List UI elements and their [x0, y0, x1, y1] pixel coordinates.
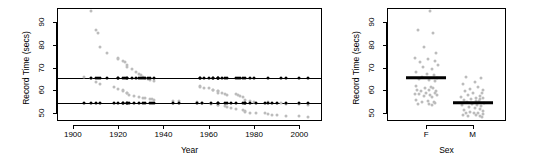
observed-point	[117, 88, 120, 91]
y-tick-label: 90	[38, 18, 46, 27]
observed-point	[480, 76, 483, 79]
y-tick-label: 70	[368, 63, 376, 72]
observed-point	[243, 110, 246, 113]
x-axis-line	[73, 125, 299, 126]
plot-area-year	[57, 8, 322, 121]
observed-point	[89, 9, 92, 12]
observed-point	[234, 107, 237, 110]
observed-point	[473, 80, 476, 83]
fitted-point	[266, 101, 269, 104]
fitted-point	[126, 76, 129, 79]
fitted-point	[153, 101, 156, 104]
x-axis-line	[426, 125, 472, 126]
x-tick-label: M	[469, 131, 476, 139]
fitted-point	[128, 101, 131, 104]
observed-point	[230, 106, 233, 109]
y-tick	[53, 113, 57, 114]
observed-point	[307, 115, 310, 118]
x-tick	[209, 125, 210, 129]
fitted-point	[148, 76, 151, 79]
observed-point	[418, 92, 421, 95]
panel-year: 5060708090190019201940196019802000 Year …	[0, 0, 340, 164]
observed-point	[422, 94, 425, 97]
observed-point	[112, 86, 115, 89]
observed-point	[271, 113, 274, 116]
observed-point	[416, 102, 419, 105]
observed-point	[133, 95, 136, 98]
observed-point	[198, 85, 201, 88]
observed-point	[255, 112, 258, 115]
observed-point	[426, 99, 429, 102]
observed-point	[94, 80, 97, 83]
observed-point	[464, 90, 467, 93]
observed-point	[421, 100, 424, 103]
observed-point	[126, 65, 129, 68]
fitted-point	[203, 76, 206, 79]
fitted-point	[280, 76, 283, 79]
observed-point	[415, 99, 418, 102]
observed-point	[128, 93, 131, 96]
fitted-point	[284, 76, 287, 79]
observed-point	[121, 90, 124, 93]
fitted-point	[248, 101, 251, 104]
observed-point	[298, 115, 301, 118]
fitted-point	[216, 101, 219, 104]
x-axis-title-sex: Sex	[439, 145, 454, 155]
fitted-point	[89, 76, 92, 79]
fitted-point	[178, 101, 181, 104]
fitted-point	[121, 101, 124, 104]
y-tick-label: 90	[368, 18, 376, 27]
observed-point	[430, 104, 433, 107]
observed-point	[83, 76, 86, 79]
fitted-point	[298, 76, 301, 79]
fitted-point	[99, 101, 102, 104]
x-tick-label: 2000	[290, 131, 308, 139]
observed-point	[467, 93, 470, 96]
x-tick	[118, 125, 119, 129]
fitted-point	[99, 76, 102, 79]
observed-point	[427, 58, 430, 61]
fitted-point	[284, 101, 287, 104]
observed-point	[467, 106, 470, 109]
observed-point	[461, 82, 464, 85]
observed-point	[99, 46, 102, 49]
observed-point	[436, 64, 439, 67]
y-tick-label: 80	[368, 40, 376, 49]
y-tick-label: 70	[38, 63, 46, 72]
observed-point	[416, 28, 419, 31]
observed-point	[477, 86, 480, 89]
observed-point	[203, 86, 206, 89]
x-tick	[473, 125, 474, 129]
x-tick	[73, 125, 74, 129]
fitted-point	[234, 101, 237, 104]
observed-point	[144, 97, 147, 100]
observed-point	[430, 67, 433, 70]
x-tick	[254, 125, 255, 129]
y-tick-label: 80	[38, 40, 46, 49]
observed-point	[419, 61, 422, 64]
fitted-point	[153, 76, 156, 79]
y-axis-line	[386, 22, 387, 113]
observed-point	[425, 91, 428, 94]
fitted-point	[137, 101, 140, 104]
observed-point	[266, 113, 269, 116]
observed-point	[475, 114, 478, 117]
observed-point	[433, 60, 436, 63]
fitted-point	[89, 101, 92, 104]
fitted-point	[212, 76, 215, 79]
fitted-point	[230, 101, 233, 104]
observed-point	[480, 115, 483, 118]
fitted-point	[307, 101, 310, 104]
observed-point	[248, 111, 251, 114]
observed-point	[212, 89, 215, 92]
observed-point	[153, 80, 156, 83]
x-tick-label: 1960	[200, 131, 218, 139]
observed-point	[429, 9, 432, 12]
observed-point	[225, 106, 228, 109]
y-axis-title-year: Record Time (secs)	[21, 31, 31, 105]
observed-point	[413, 57, 416, 60]
observed-point	[464, 76, 467, 79]
fitted-point	[133, 101, 136, 104]
observed-point	[468, 88, 471, 91]
fitted-point	[271, 101, 274, 104]
